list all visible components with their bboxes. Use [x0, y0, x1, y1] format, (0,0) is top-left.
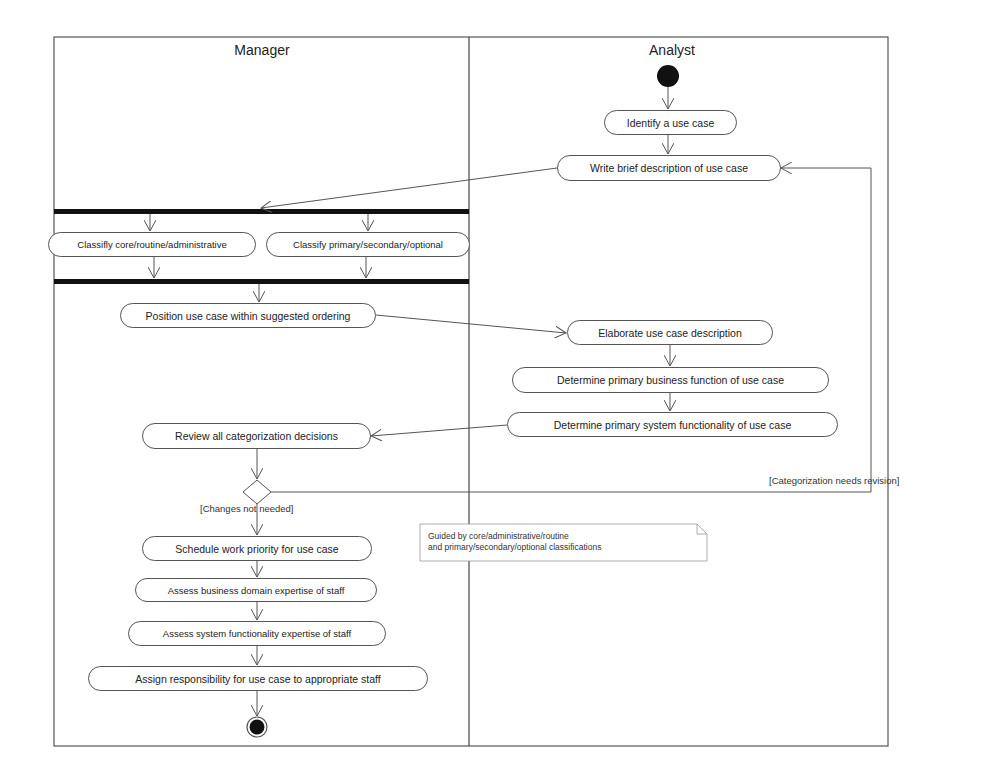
final-node — [250, 720, 265, 735]
initial-node — [657, 65, 679, 87]
activity-elaborate-description[interactable]: Elaborate use case description — [567, 320, 773, 345]
activity-classify-core[interactable]: Classifly core/routine/administrative — [48, 232, 256, 257]
activity-determine-system-functionality[interactable]: Determine primary system functionality o… — [507, 412, 838, 437]
flow-position-to-elaborate — [376, 315, 566, 333]
activity-determine-business-function[interactable]: Determine primary business function of u… — [512, 367, 829, 393]
activity-review-decisions[interactable]: Review all categorization decisions — [142, 423, 371, 449]
fork-bar — [54, 209, 469, 214]
activity-identify-use-case[interactable]: Identify a use case — [604, 110, 737, 135]
note-text-line1: Guided by core/administrative/routine — [428, 531, 569, 542]
activity-write-brief-description[interactable]: Write brief description of use case — [557, 155, 781, 181]
activity-classify-primary[interactable]: Classify primary/secondary/optional — [266, 232, 470, 257]
activity-schedule-priority[interactable]: Schedule work priority for use case — [142, 536, 372, 561]
diagram-canvas — [0, 0, 982, 780]
activity-assign-responsibility[interactable]: Assign responsibility for use case to ap… — [88, 666, 428, 691]
activity-assess-system-expertise[interactable]: Assess system functionality expertise of… — [128, 621, 386, 646]
join-bar — [54, 279, 469, 284]
lane-title-analyst: Analyst — [572, 42, 772, 58]
activity-position-use-case[interactable]: Position use case within suggested order… — [120, 303, 376, 328]
flow-system-to-review — [371, 425, 507, 436]
decision-diamond — [243, 480, 271, 504]
note-text-line2: and primary/secondary/optional classific… — [428, 542, 601, 553]
guard-needs-revision: [Categorization needs revision] — [769, 475, 899, 486]
flow-write-to-fork — [261, 168, 557, 208]
guard-changes-not-needed: [Changes not needed] — [200, 503, 294, 514]
lane-title-manager: Manager — [162, 42, 362, 58]
activity-assess-business-expertise[interactable]: Assess business domain expertise of staf… — [135, 578, 377, 602]
